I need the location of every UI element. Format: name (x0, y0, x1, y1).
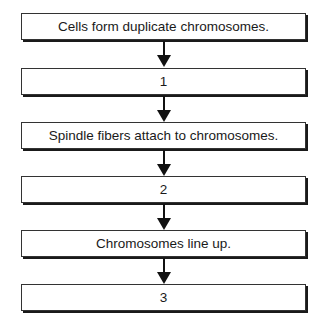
blank-step-box-1: 1 (21, 68, 306, 95)
step-number-label: 2 (160, 182, 168, 197)
blank-step-box-3: 3 (21, 284, 306, 311)
step-label: Cells form duplicate chromosomes. (58, 19, 269, 34)
down-arrow-icon (157, 96, 171, 122)
flowchart-step-box: Chromosomes line up. (21, 230, 306, 257)
down-arrow-icon (157, 41, 171, 67)
step-label: Chromosomes line up. (96, 236, 231, 251)
flowchart-step-box: Spindle fibers attach to chromosomes. (21, 122, 306, 149)
flowchart-step-box: Cells form duplicate chromosomes. (21, 13, 306, 40)
step-label: Spindle fibers attach to chromosomes. (49, 128, 279, 143)
down-arrow-icon (157, 258, 171, 284)
down-arrow-icon (157, 150, 171, 176)
step-number-label: 1 (160, 74, 168, 89)
down-arrow-icon (157, 204, 171, 230)
blank-step-box-2: 2 (21, 176, 306, 203)
step-number-label: 3 (160, 290, 168, 305)
